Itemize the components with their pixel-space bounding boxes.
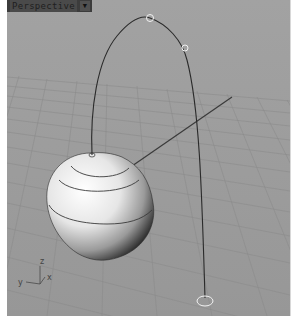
viewport-title-tab[interactable]: Perspective ▼ bbox=[7, 0, 92, 12]
perspective-viewport[interactable]: Perspective ▼ bbox=[7, 0, 291, 316]
axis-x-label: x bbox=[47, 273, 52, 282]
viewport-title[interactable]: Perspective bbox=[10, 0, 77, 12]
axis-y-label: y bbox=[18, 278, 23, 287]
chevron-down-icon[interactable]: ▼ bbox=[80, 1, 90, 11]
scene-canvas[interactable]: z x y bbox=[7, 0, 290, 316]
axis-z-label: z bbox=[40, 257, 44, 266]
